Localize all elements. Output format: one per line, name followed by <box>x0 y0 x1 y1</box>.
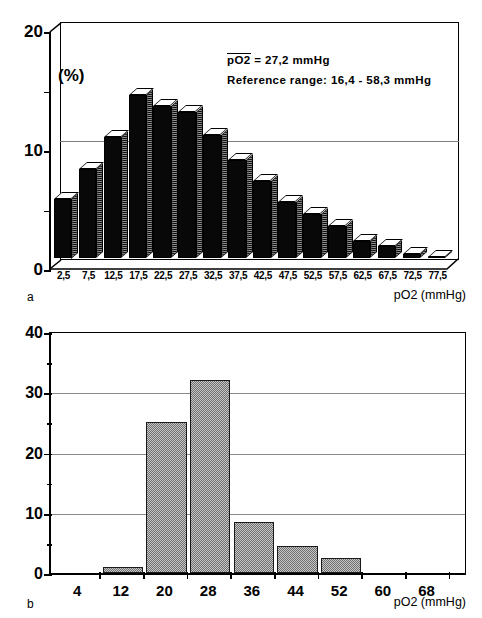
panel-a-y-tick-label-0: 0 <box>7 260 43 280</box>
panel-a-bar-side-0 <box>71 192 78 258</box>
panel-a-x-tick-label-1: 7,5 <box>82 270 95 281</box>
panel-a-bar-front-5 <box>178 112 195 258</box>
panel-b-x-tick-2 <box>187 572 189 579</box>
panel-b-x-tick-0 <box>99 572 101 579</box>
panel-a-x-tick-label-6: 32,5 <box>204 270 222 281</box>
panel-a-x-tick-label-10: 52,5 <box>304 270 322 281</box>
panel-a-annotation: pO2 = 27,2 mmHg Reference range: 16,4 - … <box>227 50 431 90</box>
panel-b-x-tick-6 <box>361 572 363 579</box>
table-row <box>234 522 274 573</box>
panel-b-x-tick-label-4: 36 <box>243 582 260 599</box>
panel-a-bar-front-7 <box>228 160 245 258</box>
table-row <box>190 380 230 573</box>
panel-a-x-tick-label-5: 27,5 <box>179 270 197 281</box>
panel-a-bar-side-3 <box>146 89 153 258</box>
panel-b-gridline-30 <box>51 393 465 394</box>
table-row <box>146 422 186 573</box>
panel-a-letter: a <box>27 290 34 304</box>
panel-a-y-tick-10 <box>44 151 51 153</box>
panel-a-y-tick-15 <box>44 92 49 94</box>
table-row <box>178 102 195 258</box>
panel-a-bar-front-6 <box>203 135 220 258</box>
panel-b-y-tick-label-40: 40 <box>7 324 43 342</box>
panel-a-x-tick-label-14: 72,5 <box>403 270 421 281</box>
panel-b-y-tick-25 <box>47 423 52 425</box>
panel-b-gridline-10 <box>51 514 465 515</box>
panel-b-y-tick-label-10: 10 <box>7 505 43 523</box>
panel-a-x-tick-label-2: 12,5 <box>104 270 122 281</box>
panel-a-x-tick-label-12: 62,5 <box>354 270 372 281</box>
panel-a-bar-front-12 <box>353 241 370 258</box>
panel-b-y-tick-label-30: 30 <box>7 384 43 402</box>
table-row <box>353 231 370 258</box>
panel-b-letter: b <box>27 597 34 611</box>
panel-a-bar-front-4 <box>153 106 170 258</box>
panel-a-bar-side-6 <box>221 129 228 258</box>
panel-a-y-tick-5 <box>44 211 49 213</box>
table-row <box>428 247 445 258</box>
panel-a-mean-value: = 27,2 mmHg <box>251 54 330 66</box>
panel-b-y-tick-label-20: 20 <box>7 445 43 463</box>
panel-a-bar-front-0 <box>54 199 71 259</box>
panel-a-bar-side-1 <box>96 163 103 258</box>
panel-b-x-tick-1 <box>143 572 145 579</box>
panel-b-y-tick-20 <box>44 454 52 456</box>
panel-a-bar-front-14 <box>403 254 420 258</box>
panel-b-y-tick-40 <box>44 333 52 335</box>
panel-b-y-tick-35 <box>47 363 52 365</box>
panel-a-x-tick-label-13: 67,5 <box>379 270 397 281</box>
table-row <box>228 150 245 258</box>
panel-b-x-tick-8 <box>449 572 451 579</box>
panel-b-x-axis-title: pO2 (mmHg) <box>394 595 466 609</box>
table-row <box>54 189 71 259</box>
panel-a-bar-front-13 <box>378 246 395 258</box>
table-row <box>303 204 320 258</box>
panel-b-histogram: 010203040 41220283644526068 b pO2 (mmHg) <box>0 310 482 618</box>
table-row <box>79 159 96 258</box>
panel-a-mean-label: pO2 <box>227 53 251 66</box>
panel-b-y-tick-label-0: 0 <box>7 565 43 583</box>
panel-b-y-tick-10 <box>44 514 52 516</box>
panel-a-bar-front-9 <box>278 202 295 258</box>
panel-a-x-axis-title: pO2 (mmHg) <box>394 288 466 302</box>
panel-b-x-tick-label-3: 28 <box>200 582 217 599</box>
panel-a-annotation-line2: Reference range: 16,4 - 58,3 mmHg <box>227 70 431 90</box>
panel-a-bar-front-10 <box>303 214 320 258</box>
panel-a-bar-side-9 <box>296 196 303 258</box>
table-row <box>278 192 295 258</box>
panel-b-gridline-20 <box>51 454 465 455</box>
panel-a-bar-side-2 <box>121 131 128 258</box>
panel-a-floor-edge <box>49 258 459 270</box>
panel-b-x-tick-label-1: 12 <box>112 582 129 599</box>
table-row <box>203 125 220 258</box>
panel-b-x-tick-label-6: 52 <box>331 582 348 599</box>
table-row <box>253 171 270 258</box>
panel-a-bar-front-3 <box>129 95 146 258</box>
panel-a-bar-side-7 <box>246 154 253 258</box>
table-row <box>321 558 361 573</box>
table-row <box>378 236 395 258</box>
table-row <box>153 96 170 258</box>
panel-a-bar-side-8 <box>271 175 278 258</box>
panel-b-x-tick-5 <box>318 572 320 579</box>
table-row <box>103 567 143 573</box>
panel-a-x-tick-label-0: 2,5 <box>57 270 70 281</box>
panel-a-bar-side-4 <box>171 100 178 258</box>
table-row <box>328 216 345 258</box>
panel-a-bar-side-5 <box>196 106 203 258</box>
table-row <box>104 127 121 258</box>
panel-a-bar-front-2 <box>104 137 121 258</box>
panel-b-x-tick-label-7: 60 <box>375 582 392 599</box>
panel-b-y-tick-30 <box>44 393 52 395</box>
panel-b-plot-area: 010203040 <box>49 332 466 575</box>
panel-a-x-tick-label-15: 77,5 <box>428 270 446 281</box>
panel-a-annotation-line1: pO2 = 27,2 mmHg <box>227 50 431 70</box>
panel-a-x-tick-label-9: 47,5 <box>279 270 297 281</box>
panel-a-3d-histogram: (%) 01020 pO2 = 27,2 mmHg Reference rang… <box>0 0 482 310</box>
panel-b-x-tick-label-0: 4 <box>73 582 81 599</box>
panel-a-bar-front-11 <box>328 226 345 258</box>
panel-a-plot-area: (%) 01020 pO2 = 27,2 mmHg Reference rang… <box>49 22 459 268</box>
panel-a-y-tick-label-10: 10 <box>7 141 43 161</box>
panel-a-x-tick-label-8: 42,5 <box>254 270 272 281</box>
panel-b-y-tick-15 <box>47 484 52 486</box>
